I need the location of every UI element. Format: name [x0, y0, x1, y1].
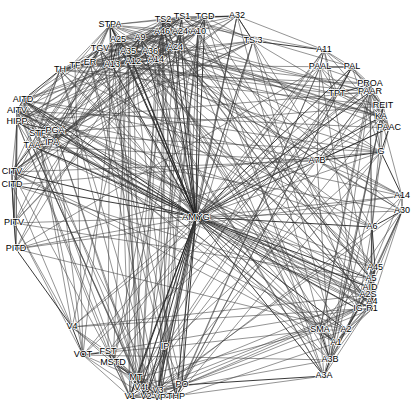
node-label: A10	[190, 26, 206, 36]
graph-node[interactable]: CITD	[2, 179, 23, 189]
graph-node[interactable]: IG	[353, 303, 363, 313]
node-label: A3A	[315, 370, 332, 380]
graph-node[interactable]: TGD	[196, 11, 215, 21]
node-label: PO	[175, 379, 188, 389]
graph-node[interactable]: TS2	[155, 14, 172, 24]
graph-node[interactable]: PAL	[344, 61, 360, 71]
node-label: A3B	[321, 354, 338, 364]
graph-node[interactable]: AITD	[13, 94, 34, 104]
graph-node[interactable]: A24	[167, 42, 183, 52]
graph-node[interactable]: THP	[167, 391, 185, 401]
node-label: A32	[229, 10, 245, 20]
graph-node[interactable]: A11	[316, 44, 331, 54]
graph-node[interactable]: AITV	[7, 105, 27, 115]
graph-node[interactable]: A45	[367, 262, 383, 272]
graph-node[interactable]: STPA	[99, 19, 122, 29]
node-label: TGV	[91, 43, 110, 53]
node-label: AMYG	[182, 211, 210, 222]
node-label: A6	[366, 221, 377, 231]
node-label: THP	[167, 391, 185, 401]
graph-node[interactable]: SMA	[310, 324, 330, 334]
graph-node[interactable]: IP	[161, 341, 170, 351]
node-label: G	[377, 146, 384, 156]
graph-node[interactable]: ER	[84, 57, 97, 67]
graph-node[interactable]: A30	[394, 205, 410, 215]
node-label: A30	[394, 205, 410, 215]
node-label: PITV	[4, 217, 24, 227]
graph-node[interactable]: A14	[148, 54, 164, 64]
node-label: MSTD	[100, 357, 126, 367]
graph-node[interactable]: A25	[110, 34, 126, 44]
node-label: TAA	[24, 140, 41, 150]
node-label: A13	[104, 59, 120, 69]
graph-node[interactable]: A3B	[321, 354, 338, 364]
graph-node[interactable]: PAAL	[309, 61, 331, 71]
graph-node[interactable]: A1	[330, 337, 341, 347]
graph-node[interactable]: VOT	[74, 349, 93, 359]
graph-node[interactable]: REIT	[373, 100, 394, 110]
graph-node[interactable]: A13	[104, 59, 120, 69]
graph-node[interactable]: PITV	[4, 217, 24, 227]
graph-node[interactable]: V2	[140, 391, 151, 401]
node-label: A1	[330, 337, 341, 347]
graph-node[interactable]: R1	[366, 303, 378, 313]
graph-node[interactable]: V1	[124, 391, 135, 401]
graph-node[interactable]: PAAC	[377, 122, 401, 132]
network-graph-figure: STPAA25A9TS2TS1TGDA32TS 3A46A24A10TGVA35…	[0, 0, 415, 412]
graph-node[interactable]: FST	[100, 346, 118, 356]
node-label: A35	[120, 46, 136, 56]
graph-node[interactable]: PITD	[6, 243, 27, 253]
graph-node[interactable]: A46	[154, 26, 170, 36]
node-label: A11	[316, 44, 331, 54]
graph-node[interactable]: MT	[130, 372, 143, 382]
node-label: VP	[154, 392, 166, 402]
node-label: IG	[353, 303, 363, 313]
graph-node[interactable]: A6	[366, 221, 377, 231]
node-label: SMA	[310, 324, 330, 334]
graph-node[interactable]: VP	[154, 392, 166, 402]
graph-node[interactable]: PGA	[45, 125, 64, 135]
node-label: A9	[134, 32, 145, 42]
graph-node[interactable]: TPT	[329, 88, 347, 98]
graph-node[interactable]: A14	[394, 190, 410, 200]
graph-node[interactable]: A10	[190, 26, 206, 36]
graph-node[interactable]: TAA	[24, 140, 41, 150]
graph-node[interactable]: G	[377, 146, 384, 156]
graph-node[interactable]: A12	[125, 56, 141, 66]
graph-node[interactable]: A3A	[315, 370, 332, 380]
graph-canvas: STPAA25A9TS2TS1TGDA32TS 3A46A24A10TGVA35…	[0, 0, 415, 412]
graph-node[interactable]: A35	[120, 46, 136, 56]
graph-node[interactable]: IPA	[45, 137, 59, 147]
node-label: PAAC	[377, 122, 401, 132]
graph-node[interactable]: CITV	[2, 166, 23, 176]
graph-node[interactable]: PAAR	[358, 86, 382, 96]
graph-node[interactable]: AMYG	[182, 211, 210, 222]
graph-node[interactable]: A32	[229, 10, 245, 20]
node-label: TS 3	[243, 35, 262, 45]
node-label: PAAR	[358, 86, 382, 96]
graph-node[interactable]: A9	[134, 32, 145, 42]
node-label: V1	[124, 391, 135, 401]
node-label: REIT	[373, 100, 394, 110]
graph-node[interactable]: TH	[54, 64, 66, 74]
node-label: VOT	[74, 349, 93, 359]
node-label: A14	[394, 190, 410, 200]
graph-node[interactable]: A7B	[308, 155, 325, 165]
node-label: TH	[54, 64, 66, 74]
graph-node[interactable]: V4	[66, 321, 77, 331]
graph-node[interactable]: TF	[70, 60, 81, 70]
graph-node[interactable]: PO	[175, 379, 188, 389]
graph-node[interactable]: A24	[172, 26, 188, 36]
node-label: MT	[130, 372, 143, 382]
graph-node[interactable]: KA	[375, 111, 387, 121]
graph-node[interactable]: TS1	[174, 11, 191, 21]
graph-node[interactable]: TGV	[91, 43, 110, 53]
graph-node[interactable]: MSTD	[100, 357, 126, 367]
node-label: PITD	[6, 243, 27, 253]
graph-node[interactable]: TS 3	[243, 35, 262, 45]
graph-node[interactable]: A2	[340, 324, 351, 334]
node-label: PGA	[45, 125, 64, 135]
node-label: A2	[340, 324, 351, 334]
graph-node[interactable]: HIPP	[6, 116, 27, 126]
node-label: A45	[367, 262, 383, 272]
